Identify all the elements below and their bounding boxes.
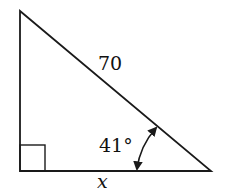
hypotenuse-label: 70 xyxy=(98,52,122,74)
right-angle-marker xyxy=(20,145,45,171)
angle-arc xyxy=(137,128,156,169)
angle-label: 41° xyxy=(99,134,133,156)
triangle-diagram: 70 41° x xyxy=(0,0,230,196)
base-label: x xyxy=(97,170,108,192)
